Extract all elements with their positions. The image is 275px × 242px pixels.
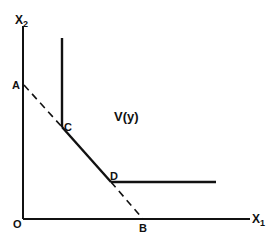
point-c-label: C (64, 121, 72, 133)
point-d-label: D (110, 170, 118, 182)
x-axis-label: X1 (252, 212, 265, 228)
dashed-line-ab-upper (24, 85, 62, 127)
dashed-line-ab-lower (111, 182, 143, 219)
region-label: V(y) (114, 109, 139, 124)
point-b-label: B (139, 222, 147, 234)
origin-label: O (13, 218, 22, 230)
isoquant-sloped-segment (62, 127, 111, 182)
point-a-label: A (12, 79, 20, 91)
isoquant-diagram: X2 X1 O A C D B V(y) (0, 0, 275, 242)
y-axis-label: X2 (15, 13, 28, 29)
